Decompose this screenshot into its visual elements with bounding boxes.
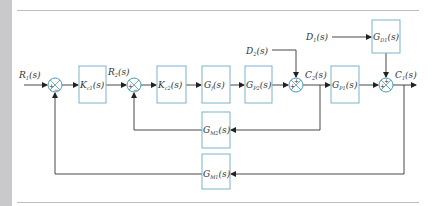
block-diagram: + − + − + + + + Kc1(s) Kc2(s) Gf(s) GP2(… bbox=[0, 0, 432, 206]
svg-text:GP1(s): GP1(s) bbox=[332, 80, 358, 91]
label-r1: R1(s) bbox=[18, 70, 41, 81]
block-gf: Gf(s) bbox=[202, 66, 230, 103]
svg-text:Kc2(s): Kc2(s) bbox=[157, 80, 183, 91]
svg-text:Kc1(s): Kc1(s) bbox=[79, 80, 105, 91]
block-gm2: GM2(s) bbox=[202, 112, 231, 148]
block-gp1: GP1(s) bbox=[331, 66, 359, 103]
block-gd1: GD1(s) bbox=[372, 20, 400, 53]
label-c1: C1(s) bbox=[395, 70, 417, 81]
disturbance-paths bbox=[272, 37, 386, 77]
summing-junction-1: + − bbox=[48, 78, 62, 93]
svg-text:GP2(s): GP2(s) bbox=[246, 80, 272, 91]
block-gp2: GP2(s) bbox=[245, 66, 272, 103]
block-kc1: Kc1(s) bbox=[79, 66, 106, 103]
block-kc2: Kc2(s) bbox=[157, 66, 186, 103]
summing-junction-4: + + bbox=[379, 77, 393, 92]
label-d2: D2(s) bbox=[245, 46, 269, 57]
svg-text:−: − bbox=[54, 86, 59, 93]
block-gm1: GM1(s) bbox=[202, 154, 231, 189]
svg-text:+: + bbox=[380, 82, 385, 89]
svg-text:−: − bbox=[133, 86, 138, 93]
summing-junction-2: + − bbox=[127, 78, 141, 93]
label-c2: C2(s) bbox=[305, 70, 327, 81]
label-r2: R2(s) bbox=[107, 67, 130, 78]
svg-text:+: + bbox=[290, 82, 295, 89]
summing-junction-3: + + bbox=[289, 77, 303, 92]
label-d1: D1(s) bbox=[305, 32, 329, 43]
